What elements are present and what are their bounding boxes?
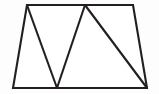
figure-container bbox=[0, 0, 159, 94]
geometry-figure bbox=[0, 0, 159, 94]
